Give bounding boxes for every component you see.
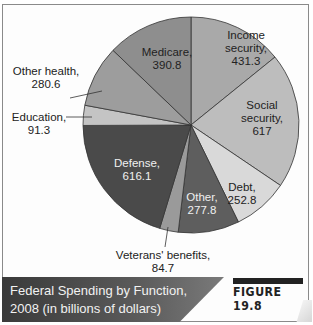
label-text: Defense, <box>114 157 160 170</box>
label-value: 617 <box>241 125 283 138</box>
label-text: Education, <box>12 111 66 124</box>
label-defense: Defense, 616.1 <box>114 157 160 183</box>
label-medicare: Medicare, 390.8 <box>142 46 193 72</box>
label-text: security, <box>241 112 283 125</box>
label-text: Social <box>241 99 283 112</box>
label-value: 252.8 <box>228 194 257 207</box>
label-text: Income <box>225 29 267 42</box>
label-value: 280.6 <box>13 78 79 91</box>
chart-title: Federal Spending by Function, 2008 (in b… <box>10 282 187 318</box>
label-value: 616.1 <box>114 170 160 183</box>
figure-bar <box>233 278 303 284</box>
label-debt: Debt, 252.8 <box>228 181 257 207</box>
label-value: 431.3 <box>225 55 267 68</box>
label-value: 91.3 <box>12 124 66 137</box>
label-text: Other, <box>186 191 217 204</box>
label-text: security, <box>225 42 267 55</box>
label-income-security: Income security, 431.3 <box>225 29 267 68</box>
label-text: Veterans' benefits, <box>116 249 210 262</box>
label-other: Other, 277.8 <box>186 191 217 217</box>
label-value: 84.7 <box>116 262 210 275</box>
chart-title-line1: Federal Spending by Function, <box>10 282 187 300</box>
label-other-health: Other health, 280.6 <box>13 65 79 91</box>
label-text: Medicare, <box>142 46 193 59</box>
label-text: Other health, <box>13 65 79 78</box>
label-text: Debt, <box>228 181 257 194</box>
label-social-security: Social security, 617 <box>241 99 283 138</box>
label-value: 277.8 <box>186 204 217 217</box>
chart-title-line2: 2008 (in billions of dollars) <box>10 300 187 318</box>
label-education: Education, 91.3 <box>12 111 66 137</box>
label-value: 390.8 <box>142 59 193 72</box>
label-veterans-benefits: Veterans' benefits, 84.7 <box>116 249 210 275</box>
